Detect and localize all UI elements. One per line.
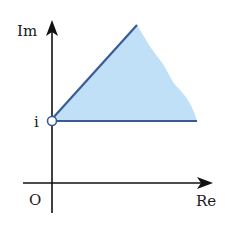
origin-label: O xyxy=(29,191,41,209)
complex-plane-diagram: Im i O Re xyxy=(0,0,225,233)
point-i-label: i xyxy=(34,113,39,131)
im-axis-label: Im xyxy=(17,22,37,40)
point-i-open-circle xyxy=(48,117,57,126)
re-axis-label: Re xyxy=(196,192,216,210)
